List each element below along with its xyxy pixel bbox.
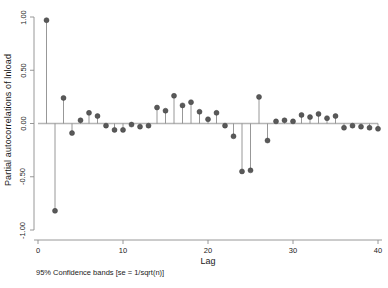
- pacf-point: [163, 108, 168, 113]
- pacf-point: [189, 100, 194, 105]
- y-axis-tick-label: 1.00: [16, 5, 30, 29]
- x-axis-tick-label: 40: [363, 246, 388, 255]
- pacf-point: [240, 169, 245, 174]
- pacf-point: [308, 115, 313, 120]
- pacf-point: [376, 126, 381, 131]
- pacf-point: [87, 110, 92, 115]
- pacf-point: [78, 118, 83, 123]
- pacf-point: [325, 116, 330, 121]
- pacf-point: [367, 125, 372, 130]
- pacf-point: [257, 94, 262, 99]
- pacf-point: [138, 124, 143, 129]
- x-axis-tick-label: 0: [23, 246, 53, 255]
- pacf-point: [155, 105, 160, 110]
- pacf-point: [129, 122, 134, 127]
- pacf-point: [70, 131, 75, 136]
- y-axis-tick-label: -1.00: [16, 218, 30, 242]
- pacf-point: [223, 123, 228, 128]
- x-axis-tick-label: 30: [278, 246, 308, 255]
- x-axis-tick-label: 10: [108, 246, 138, 255]
- y-axis-title: Partial autocorrelations of lnload: [0, 0, 16, 240]
- y-axis-tick-label: -0.50: [16, 165, 30, 189]
- pacf-point: [299, 112, 304, 117]
- pacf-point: [44, 18, 49, 23]
- pacf-point: [180, 103, 185, 108]
- pacf-point: [248, 168, 253, 173]
- pacf-point: [359, 124, 364, 129]
- y-axis-tick-label: 0.50: [16, 58, 30, 82]
- pacf-point: [197, 109, 202, 114]
- x-axis-tick-label: 20: [193, 246, 223, 255]
- pacf-point: [146, 123, 151, 128]
- pacf-point: [95, 114, 100, 119]
- confidence-band-note: 95% Confidence bands [se = 1/sqrt(n)]: [36, 268, 164, 277]
- pacf-chart: Partial autocorrelations of lnload 95% C…: [0, 0, 388, 288]
- x-axis-title: Lag: [188, 256, 228, 266]
- pacf-point: [214, 110, 219, 115]
- pacf-point: [291, 119, 296, 124]
- pacf-point: [350, 123, 355, 128]
- pacf-point: [112, 127, 117, 132]
- pacf-point: [172, 93, 177, 98]
- pacf-point: [121, 127, 126, 132]
- pacf-point: [104, 123, 109, 128]
- plot-area: [0, 0, 388, 288]
- pacf-point: [265, 138, 270, 143]
- pacf-point: [206, 117, 211, 122]
- pacf-point: [282, 118, 287, 123]
- pacf-point: [316, 111, 321, 116]
- pacf-point: [53, 208, 58, 213]
- pacf-point: [333, 114, 338, 119]
- pacf-point: [231, 134, 236, 139]
- y-axis-tick-label: 0.00: [16, 112, 30, 136]
- y-axis-title-label: Partial autocorrelations of lnload: [3, 54, 13, 186]
- pacf-point: [274, 119, 279, 124]
- pacf-point: [61, 95, 66, 100]
- pacf-point: [342, 125, 347, 130]
